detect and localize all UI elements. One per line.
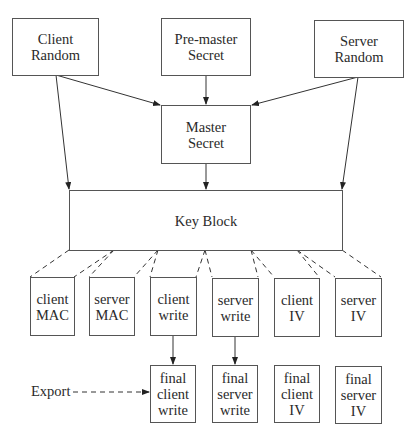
arrow-server-random-to-master [252,77,358,105]
box-label: IV [289,402,304,418]
box-label: server [94,291,129,307]
box-label: client [281,386,313,402]
client-random-box: Client Random [12,18,99,76]
final-client-iv-box: final client IV [274,365,320,423]
box-label: Random [334,49,383,65]
box-label: write [220,402,250,418]
arrow-client-random-to-master [56,75,160,105]
box-label: server [218,292,253,308]
box-label: client [281,292,313,308]
box-label: write [221,308,251,324]
key-block-label: Key Block [175,213,237,229]
key-block-box: Key Block [69,190,343,251]
box-label: write [158,402,188,418]
box-label: MAC [36,307,69,323]
box-label: server [341,387,376,403]
arrow-client-random-to-keyblock [56,75,69,189]
server-write-box: server write [212,278,259,337]
box-label: IV [351,403,366,419]
box-label: Pre-master [175,31,238,47]
final-server-iv-box: final server IV [335,366,382,424]
box-label: final [345,371,372,387]
box-label: Secret [188,135,224,151]
box-label: final [284,370,311,386]
box-label: Server [340,33,378,49]
client-write-box: client write [150,277,197,336]
box-label: server [217,386,252,402]
server-random-box: Server Random [314,20,404,78]
box-label: final [222,370,249,386]
box-label: client [157,291,189,307]
box-label: IV [351,308,366,324]
box-label: MAC [95,307,128,323]
export-label: Export [31,383,70,400]
box-label: Client [38,31,73,47]
client-iv-box: client IV [274,278,320,337]
box-label: client [36,291,68,307]
final-server-write-box: final server write [212,365,258,423]
box-label: client [157,386,189,402]
client-mac-box: client MAC [30,277,75,336]
pre-master-secret-box: Pre-master Secret [161,18,251,76]
box-label: write [159,307,189,323]
box-label: Secret [188,47,224,63]
server-iv-box: server IV [335,278,382,337]
box-label: server [341,292,376,308]
master-secret-box: Master Secret [161,105,251,164]
server-mac-box: server MAC [89,277,135,336]
box-label: Master [186,119,226,135]
box-label: final [160,370,187,386]
box-label: IV [289,308,304,324]
box-label: Random [31,47,80,63]
final-client-write-box: final client write [150,365,196,423]
arrow-server-random-to-keyblock [342,77,358,189]
